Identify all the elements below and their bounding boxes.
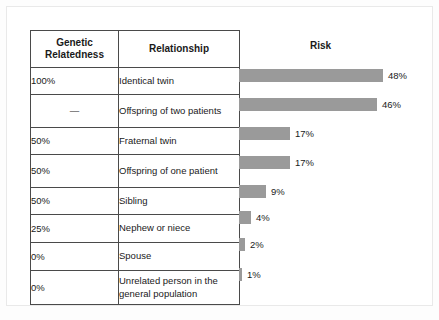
bar-value-label: 48% <box>388 69 407 82</box>
table-row: — Offspring of two patients <box>31 95 240 128</box>
bar-row: 17% <box>239 120 429 146</box>
table-row: 25% Nephew or niece <box>31 215 240 243</box>
column-header-relationship: Relationship <box>119 31 240 68</box>
bar-row: 48% <box>239 62 429 88</box>
figure-root: Genetic Relatedness Relationship 100% Id… <box>0 0 439 320</box>
risk-bar <box>239 69 383 82</box>
cell-relationship: Fraternal twin <box>119 128 240 155</box>
column-header-genetic-relatedness: Genetic Relatedness <box>31 31 119 68</box>
risk-bar <box>239 238 245 251</box>
chart-title: Risk <box>239 30 402 62</box>
bar-row: 17% <box>239 146 429 178</box>
bar-row: 1% <box>239 258 429 291</box>
bar-row: 46% <box>239 88 429 120</box>
cell-relatedness: — <box>31 95 119 128</box>
genetics-table-wrapper: Genetic Relatedness Relationship 100% Id… <box>30 30 239 293</box>
bar-value-label: 46% <box>382 98 401 111</box>
bar-rows-container: 48% 46% 17% 17% 9% 4% <box>239 62 429 291</box>
cell-relationship: Sibling <box>119 188 240 215</box>
bar-row: 2% <box>239 231 429 258</box>
cell-relationship: Identical twin <box>119 68 240 95</box>
bar-value-label: 4% <box>256 211 270 224</box>
bar-value-label: 1% <box>247 268 261 281</box>
cell-relationship: Offspring of two patients <box>119 95 240 128</box>
risk-bar <box>239 211 251 224</box>
table-row: 0% Unrelated person in the general popul… <box>31 271 240 305</box>
cell-relationship: Offspring of one patient <box>119 155 240 188</box>
risk-bar <box>239 268 242 281</box>
column-header-line-1: Genetic <box>35 37 114 49</box>
risk-bar <box>239 98 377 111</box>
cell-relatedness: 0% <box>31 271 119 305</box>
table-header-row: Genetic Relatedness Relationship <box>31 31 240 68</box>
bar-value-label: 17% <box>295 156 314 169</box>
genetics-risk-table: Genetic Relatedness Relationship 100% Id… <box>30 30 240 305</box>
bar-row: 9% <box>239 178 429 204</box>
column-header-relationship-label: Relationship <box>119 37 239 61</box>
cell-relatedness: 50% <box>31 155 119 188</box>
column-header-line-2: Relatedness <box>35 49 114 61</box>
cell-relatedness: 100% <box>31 68 119 95</box>
cell-relatedness: 0% <box>31 243 119 271</box>
risk-bar <box>239 127 290 140</box>
cell-relationship: Unrelated person in the general populati… <box>119 271 240 305</box>
risk-bar-chart: Risk 48% 46% 17% 17% 9% <box>239 30 429 293</box>
cell-relatedness: 50% <box>31 128 119 155</box>
bar-value-label: 9% <box>271 185 285 198</box>
bar-value-label: 17% <box>295 127 314 140</box>
cell-relatedness: 50% <box>31 188 119 215</box>
bar-value-label: 2% <box>250 238 264 251</box>
table-row: 50% Fraternal twin <box>31 128 240 155</box>
table-row: 50% Offspring of one patient <box>31 155 240 188</box>
cell-relationship: Spouse <box>119 243 240 271</box>
cell-relationship: Nephew or niece <box>119 215 240 243</box>
risk-bar <box>239 156 290 169</box>
risk-bar <box>239 185 266 198</box>
bar-row: 4% <box>239 204 429 231</box>
table-row: 100% Identical twin <box>31 68 240 95</box>
table-row: 50% Sibling <box>31 188 240 215</box>
table-row: 0% Spouse <box>31 243 240 271</box>
cell-relatedness: 25% <box>31 215 119 243</box>
